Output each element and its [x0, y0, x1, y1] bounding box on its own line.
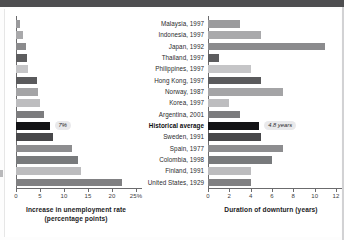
axis-tick-label: 25% [130, 193, 142, 199]
bar-row [201, 109, 341, 120]
left-edge-marker [0, 170, 3, 177]
axis-tick [293, 188, 294, 192]
category-label: United States, 1929 [147, 177, 207, 188]
category-label: Spain, 1977 [147, 143, 207, 154]
category-label: Historical average [147, 120, 207, 131]
axis-tick [88, 188, 89, 192]
axis-tick [336, 188, 337, 192]
category-label: Philippines, 1997 [147, 63, 207, 74]
category-label: Sweden, 1991 [147, 131, 207, 142]
axis-tick-label: 6 [270, 193, 273, 199]
bar-row [5, 18, 147, 29]
left-chart-panel: 7% 0510152025% Increase in unemployment … [5, 9, 147, 237]
bar-row: 7% [5, 120, 147, 131]
bar [208, 179, 251, 187]
category-label: Finland, 1991 [147, 165, 207, 176]
bar-row [5, 131, 147, 142]
bar-row [201, 177, 341, 188]
axis-tick-label: 10 [311, 193, 318, 199]
bar [208, 65, 251, 73]
bar-row: 4.8 years [201, 120, 341, 131]
axis-tick [64, 188, 65, 192]
right-chart-x-axis [208, 188, 342, 189]
axis-tick-label: 0 [206, 193, 209, 199]
bar [208, 145, 283, 153]
bar-row [201, 75, 341, 86]
bar-row [5, 75, 147, 86]
bar-row [5, 29, 147, 40]
axis-tick [229, 188, 230, 192]
axis-tick [136, 188, 137, 192]
bar-row [5, 63, 147, 74]
bar [208, 88, 283, 96]
bar [16, 156, 78, 164]
category-label: Thailand, 1997 [147, 52, 207, 63]
axis-tick [208, 188, 209, 192]
chart-frame: 7% 0510152025% Increase in unemployment … [4, 9, 341, 237]
bar-row [201, 52, 341, 63]
axis-tick-label: 20 [109, 193, 116, 199]
axis-tick-label: 8 [292, 193, 295, 199]
bar-row [201, 143, 341, 154]
bar-row [201, 63, 341, 74]
bar-row [201, 97, 341, 108]
axis-tick [16, 188, 17, 192]
bar-row [5, 154, 147, 165]
bar-row [5, 41, 147, 52]
axis-tick [272, 188, 273, 192]
left-axis-title-line1: Increase in unemployment rate [5, 205, 147, 214]
bar-row [5, 165, 147, 176]
bar [208, 99, 229, 107]
bar-row [5, 97, 147, 108]
bar-row [201, 18, 341, 29]
category-label: Indonesia, 1997 [147, 29, 207, 40]
bar-row [5, 86, 147, 97]
bar [208, 133, 261, 141]
bar [16, 133, 53, 141]
category-labels: Malaysia, 1997Indonesia, 1997Japan, 1992… [147, 18, 207, 188]
bar-row [5, 177, 147, 188]
bar [208, 31, 261, 39]
bar [16, 122, 50, 130]
bar [208, 77, 261, 85]
right-chart-bars: 4.8 years [201, 18, 341, 188]
right-axis-title-line1: Duration of downturn (years) [201, 205, 341, 214]
category-label: Norway, 1987 [147, 86, 207, 97]
bar-row [5, 109, 147, 120]
bar [208, 20, 240, 28]
bar [208, 43, 325, 51]
axis-tick-label: 10 [61, 193, 68, 199]
bar [16, 88, 38, 96]
axis-tick-label: 4 [249, 193, 252, 199]
bar [16, 111, 44, 119]
bar [16, 167, 81, 175]
category-label: Colombia, 1998 [147, 154, 207, 165]
bar-row [5, 52, 147, 63]
right-chart-panel: 4.8 years 024681012 Duration of downturn… [201, 9, 341, 237]
axis-tick [251, 188, 252, 192]
bar [16, 20, 20, 28]
bar [16, 99, 40, 107]
bar-row [201, 29, 341, 40]
bar-row [201, 154, 341, 165]
bar-row [201, 165, 341, 176]
bar [208, 167, 251, 175]
bar [208, 122, 259, 130]
chart-page: 7% 0510152025% Increase in unemployment … [0, 0, 344, 240]
left-chart-x-axis [16, 188, 142, 189]
axis-tick-label: 15 [85, 193, 92, 199]
bar-row [5, 143, 147, 154]
value-callout-badge: 7% [55, 121, 71, 131]
axis-tick [315, 188, 316, 192]
bar [208, 111, 240, 119]
axis-tick-label: 2 [228, 193, 231, 199]
axis-tick [40, 188, 41, 192]
axis-tick-label: 5 [38, 193, 41, 199]
top-banner [0, 0, 344, 7]
bar [16, 54, 27, 62]
right-chart-axis-title: Duration of downturn (years) [201, 205, 341, 214]
axis-tick-label: 12 [333, 193, 340, 199]
category-label: Japan, 1992 [147, 41, 207, 52]
bar-row [201, 41, 341, 52]
bar [16, 77, 37, 85]
